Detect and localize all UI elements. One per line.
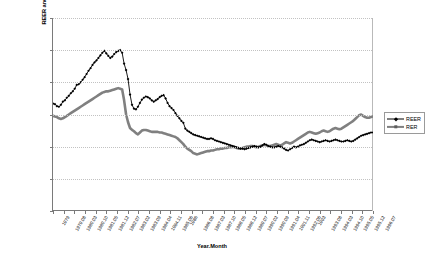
x-tick-mark [160, 211, 161, 214]
x-tick-mark [341, 211, 342, 214]
legend-item-reer[interactable]: REER [387, 115, 421, 123]
legend-label-rer: RER [406, 124, 417, 130]
x-tick-mark [298, 211, 299, 214]
x-tick-mark [85, 211, 86, 214]
legend-swatch-rer [387, 123, 404, 131]
x-tick-mark [234, 211, 235, 214]
chart-container: 0.0050.00100.00150.00200.00250.00300.00 … [0, 0, 443, 265]
legend-label-reer: REER [406, 116, 421, 122]
x-tick-mark [64, 211, 65, 214]
x-tick-mark [192, 211, 193, 214]
plot-area: 0.0050.00100.00150.00200.00250.00300.00 … [52, 18, 372, 211]
x-tick-mark [128, 211, 129, 214]
gridline [53, 179, 372, 180]
series-reer [53, 49, 373, 152]
gridline [53, 50, 372, 51]
y-tick-mark [50, 82, 53, 83]
x-tick-mark [202, 211, 203, 214]
x-tick-mark [288, 211, 289, 214]
x-tick-mark [138, 211, 139, 214]
x-tick-mark [149, 211, 150, 214]
gridline [53, 115, 372, 116]
x-tick-mark [213, 211, 214, 214]
x-tick-mark [266, 211, 267, 214]
gridline [53, 18, 372, 19]
y-tick-mark [50, 179, 53, 180]
y-tick-mark [50, 18, 53, 19]
y-axis-title: REER and RER Indexes (1980=100) [41, 0, 47, 58]
x-tick-mark [309, 211, 310, 214]
y-tick-mark [50, 50, 53, 51]
x-tick-mark [74, 211, 75, 214]
series-rer [53, 88, 373, 154]
x-tick-mark [117, 211, 118, 214]
x-tick-label: 1979 [61, 215, 70, 226]
x-tick-mark [53, 211, 54, 214]
x-tick-mark [170, 211, 171, 214]
gridline [53, 147, 372, 148]
x-tick-mark [256, 211, 257, 214]
legend-item-rer[interactable]: RER [387, 123, 421, 131]
x-tick-mark [96, 211, 97, 214]
y-tick-mark [50, 147, 53, 148]
x-tick-mark [320, 211, 321, 214]
x-tick-mark [373, 211, 374, 214]
y-tick-mark [50, 115, 53, 116]
gridline [53, 82, 372, 83]
legend-swatch-reer [387, 115, 404, 123]
x-tick-mark [181, 211, 182, 214]
x-tick-mark [352, 211, 353, 214]
x-axis-title: Year.Month [52, 243, 372, 249]
x-tick-mark [362, 211, 363, 214]
x-tick-mark [224, 211, 225, 214]
x-tick-mark [245, 211, 246, 214]
x-tick-mark [330, 211, 331, 214]
x-tick-mark [106, 211, 107, 214]
x-tick-mark [277, 211, 278, 214]
chart-legend: REER RER [384, 112, 425, 134]
